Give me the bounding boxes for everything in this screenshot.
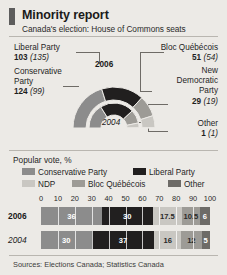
bar-segment-2006-other: 6	[200, 207, 210, 225]
divider-bottom	[9, 255, 218, 256]
bar-gridline-40	[109, 207, 110, 225]
legend-label-bloc: Bloc Québécois	[88, 180, 145, 189]
legend-label-ndp: NDP	[38, 180, 55, 189]
seat-previous-bloc: (54)	[203, 53, 218, 62]
legend-item-liberal: Liberal Party	[133, 168, 195, 177]
bar-segment-2006-ndp: 17.5	[153, 207, 183, 225]
seat-value-liberal: 103	[14, 53, 28, 62]
seat-value-ndp: 29	[192, 97, 201, 106]
axis-tick-100: 100	[204, 194, 216, 203]
seat-previous-ndp: (19)	[203, 97, 218, 106]
axis-tick-10: 10	[54, 194, 62, 203]
axis-tick-0: 0	[39, 194, 43, 203]
donut-label-2004: 2004	[102, 118, 120, 127]
legend-swatch-other	[168, 180, 181, 187]
infographic-panel: Minority report Canada's election: House…	[0, 0, 227, 275]
bar-segment-2004-other: 5	[202, 231, 210, 249]
seat-party-ndp: New Democratic Party	[177, 66, 218, 95]
divider-middle	[9, 150, 218, 151]
legend-swatch-liberal	[133, 168, 146, 175]
bar-gridline-60	[142, 207, 143, 225]
seat-label-ndp: New Democratic Party 29 (19)	[162, 66, 218, 107]
bar-segment-2006-conservative: 36	[41, 207, 102, 225]
legend-item-other: Other	[168, 180, 204, 189]
bar-gridline-90	[193, 231, 194, 249]
page-title: Minority report	[22, 8, 109, 22]
legend-item-conservative: Conservative Party	[22, 168, 107, 177]
bar-gridline-50	[126, 207, 127, 225]
seat-previous-other: (1)	[208, 129, 218, 138]
legend-item-bloc: Bloc Québécois	[72, 180, 145, 189]
seat-party-liberal: Liberal Party	[14, 43, 60, 52]
legend-label-other: Other	[184, 180, 204, 189]
bar-gridline-20	[75, 231, 76, 249]
source-note: Sources: Elections Canada; Statistics Ca…	[13, 260, 164, 269]
bar-gridline-10	[58, 231, 59, 249]
bar-gridline-50	[126, 231, 127, 249]
legend-swatch-ndp	[22, 180, 35, 187]
bar-gridline-80	[176, 231, 177, 249]
bar-segment-2006-bloc: 10.5	[182, 207, 200, 225]
seat-previous-liberal: (135)	[30, 53, 49, 62]
axis-tick-80: 80	[172, 194, 180, 203]
leader-line-liberal	[76, 52, 100, 53]
bar-row-2004: 2004 303716125	[41, 231, 210, 249]
vote-axis: 0102030405060708090100	[41, 194, 210, 204]
divider-top	[9, 36, 218, 37]
seat-value-other: 1	[201, 129, 206, 138]
bar-segment-2004-conservative: 30	[41, 231, 92, 249]
bar-segment-2004-bloc: 12	[181, 231, 201, 249]
axis-tick-50: 50	[121, 194, 129, 203]
leader-line-bloc	[140, 52, 164, 53]
bar-gridline-80	[176, 207, 177, 225]
seat-value-conservative: 124	[14, 87, 28, 96]
seat-party-other: Other	[198, 119, 218, 128]
axis-tick-60: 60	[138, 194, 146, 203]
donut-label-2006: 2006	[95, 60, 113, 69]
legend-swatch-bloc	[72, 180, 85, 187]
bar-gridline-30	[92, 207, 93, 225]
bar-gridline-20	[75, 207, 76, 225]
axis-tick-30: 30	[88, 194, 96, 203]
seat-party-bloc: Bloc Québécois	[161, 43, 218, 52]
popular-vote-title: Popular vote, %	[13, 155, 72, 165]
bar-segment-2004-liberal: 37	[92, 231, 155, 249]
page-subtitle: Canada's election: House of Commons seat…	[22, 24, 186, 34]
bar-gridline-70	[159, 207, 160, 225]
legend-item-ndp: NDP	[22, 180, 55, 189]
bar-row-2006: 2006 363017.510.56	[41, 207, 210, 225]
axis-tick-40: 40	[104, 194, 112, 203]
seat-previous-conservative: (99)	[30, 87, 45, 96]
seat-label-other: Other 1 (1)	[162, 119, 218, 139]
bar-gridline-90	[193, 207, 194, 225]
axis-tick-70: 70	[155, 194, 163, 203]
axis-tick-20: 20	[71, 194, 79, 203]
bar-gridline-30	[92, 231, 93, 249]
axis-tick-90: 90	[189, 194, 197, 203]
seat-party-conservative: Conservative Party	[14, 67, 62, 86]
seat-label-conservative: Conservative Party 124 (99)	[14, 67, 76, 98]
bar-gridline-70	[159, 231, 160, 249]
bar-row-label-2004: 2004	[8, 235, 38, 245]
legend-swatch-conservative	[22, 168, 35, 175]
accent-bar	[9, 8, 15, 25]
bar-gridline-40	[109, 231, 110, 249]
bar-row-label-2006: 2006	[8, 211, 38, 221]
bar-gridline-60	[142, 231, 143, 249]
legend-label-liberal: Liberal Party	[149, 168, 195, 177]
legend-label-conservative: Conservative Party	[38, 168, 107, 177]
bar-gridline-10	[58, 207, 59, 225]
seat-value-bloc: 51	[192, 53, 201, 62]
